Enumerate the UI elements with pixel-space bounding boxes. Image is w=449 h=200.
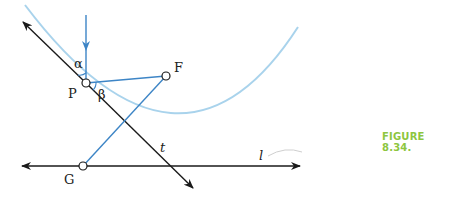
- segment-fg: [83, 76, 166, 166]
- segment-pf: [86, 76, 166, 83]
- angle-beta-arc: [93, 82, 96, 90]
- label-f: F: [174, 60, 183, 75]
- parabola-curve: [25, 5, 298, 113]
- tangent-line-t: [23, 22, 86, 83]
- point-f-marker: [162, 72, 170, 80]
- label-g: G: [64, 172, 74, 187]
- faint-mark: [268, 150, 302, 156]
- label-alpha: α: [74, 56, 83, 71]
- point-g-marker: [79, 162, 87, 170]
- label-t: t: [160, 140, 166, 155]
- figure-caption: FIGURE 8.34.: [382, 131, 449, 153]
- label-p: P: [68, 86, 77, 101]
- label-beta: β: [98, 87, 106, 102]
- label-l: l: [259, 148, 263, 163]
- point-p-marker: [82, 79, 90, 87]
- parabola-reflection-diagram: α β P F G t l: [0, 0, 449, 200]
- angle-alpha-arc: [78, 73, 86, 75]
